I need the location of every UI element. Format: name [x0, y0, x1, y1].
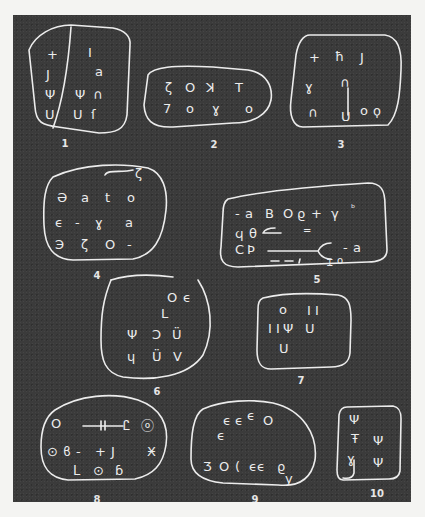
svg-text:ɣ: ɣ [95, 215, 103, 230]
svg-text:ζ: ζ [81, 237, 88, 252]
svg-text:Ψ: Ψ [373, 433, 383, 448]
svg-text:U: U [305, 321, 315, 336]
svg-text:ϱ: ϱ [297, 206, 305, 221]
svg-text:Ͻ: Ͻ [152, 327, 161, 342]
svg-text:L: L [161, 306, 169, 321]
svg-text:O: O [219, 459, 229, 474]
svg-text:Ψ: Ψ [349, 412, 359, 427]
svg-text:ᵇ: ᵇ [351, 203, 355, 214]
tablet-6: O ϵ L Ψ Ͻ Ü ɥ Ü V 6 [101, 275, 210, 397]
svg-text:V: V [173, 349, 182, 364]
svg-text:⊙: ⊙ [47, 444, 58, 459]
tablet-10: Ψ Ŧ Ψ ɣ Ψ 10 [337, 406, 401, 499]
svg-text:ꓘ: ꓘ [205, 80, 215, 95]
tablet-number-2: 2 [211, 139, 218, 150]
svg-text:o: o [186, 101, 194, 116]
tablet-1: + J Ψ U I a Ψ ∩ U ſ 1 [29, 25, 130, 149]
tablet-5: - a B O ϱ + γ ᵇ ϥ θ = C Ϸ - a Ꮖ o 5 [221, 183, 387, 285]
tablet-3: + ħ J ɣ ∩ ∩ U o ϙ 3 [291, 35, 402, 150]
svg-text:+: + [311, 206, 322, 221]
svg-text:a: a [81, 190, 89, 205]
tablet-4: ζ Ә a t o ϵ - ɣ a Э ζ O - 4 [44, 165, 167, 281]
svg-text:a: a [353, 240, 361, 255]
svg-text:a: a [125, 215, 133, 230]
tablet-9: ϵ ϵ ϵ O ϵ Ӡ O ( ϵϵ ϱ y 9 [191, 401, 315, 502]
svg-text:ζ: ζ [165, 80, 172, 95]
svg-text:t: t [105, 190, 110, 205]
svg-text:I I: I I [268, 321, 280, 336]
svg-text:O: O [105, 237, 115, 252]
tablet-8: O Ꮭ ⓞ ⊙ ϐ - + J Ӿ ᒪ ⊙ ɓ 8 [41, 396, 167, 502]
svg-text:ϵϵ: ϵϵ [249, 459, 265, 474]
tablet-number-7: 7 [298, 375, 305, 386]
svg-text:ζ: ζ [135, 166, 142, 181]
svg-text:Ϸ: Ϸ [247, 242, 255, 257]
svg-text:O: O [185, 80, 195, 95]
svg-text:⊙: ⊙ [93, 463, 104, 478]
svg-text:J: J [45, 67, 50, 82]
svg-text:J: J [359, 50, 364, 65]
svg-text:-: - [235, 206, 240, 221]
svg-text:ϵ: ϵ [235, 413, 243, 428]
svg-text:C: C [235, 242, 244, 257]
svg-text:Ꮖ: Ꮖ [327, 258, 333, 268]
svg-text:Э: Э [55, 237, 64, 252]
tablet-number-8: 8 [94, 494, 101, 502]
svg-text:-: - [76, 444, 81, 459]
svg-text:ϙ: ϙ [373, 103, 381, 118]
svg-text:ϥ: ϥ [235, 226, 244, 241]
svg-text:ſ: ſ [91, 107, 96, 122]
tablet-number-1: 1 [62, 138, 69, 149]
svg-text:U: U [341, 109, 351, 124]
inscription-plate: + J Ψ U I a Ψ ∩ U ſ 1 ζ O ꓘ T 7 o ɣ o 2 … [13, 15, 411, 502]
svg-text:o: o [360, 103, 368, 118]
svg-text:∩: ∩ [93, 87, 103, 102]
svg-text:B: B [265, 206, 274, 221]
svg-text:o: o [279, 302, 287, 317]
tablet-2: ζ O ꓘ T 7 o ɣ o 2 [144, 66, 271, 150]
svg-text:Ꮭ: Ꮭ [123, 418, 130, 433]
svg-text:o: o [127, 190, 135, 205]
svg-text:ⓞ: ⓞ [141, 418, 154, 433]
svg-text:o: o [245, 101, 253, 116]
tablet-number-4: 4 [94, 270, 101, 281]
svg-text:ɣ: ɣ [212, 101, 220, 116]
svg-text:θ: θ [249, 226, 257, 241]
svg-text:ɥ: ɥ [127, 349, 135, 364]
svg-text:Ψ: Ψ [283, 321, 293, 336]
svg-text:+: + [95, 444, 106, 459]
svg-text:Ψ: Ψ [373, 455, 383, 470]
svg-text:Ŧ: Ŧ [350, 431, 359, 446]
svg-text:+: + [47, 47, 58, 62]
svg-text:-: - [343, 240, 348, 255]
svg-text:I: I [88, 45, 92, 60]
svg-text:a: a [245, 206, 253, 221]
svg-text:ϵ: ϵ [183, 290, 191, 305]
svg-text:y: y [285, 471, 293, 486]
svg-text:O: O [283, 206, 293, 221]
svg-text:Ӡ: Ӡ [203, 459, 212, 474]
svg-text:(: ( [235, 459, 240, 474]
svg-text:U: U [45, 107, 55, 122]
svg-text:+: + [309, 50, 320, 65]
svg-text:Ü: Ü [172, 326, 182, 342]
svg-text:-: - [127, 237, 132, 252]
svg-text:o: o [337, 255, 343, 266]
svg-text:I I: I I [307, 303, 319, 318]
svg-text:ħ: ħ [335, 49, 344, 64]
svg-text:a: a [95, 64, 103, 79]
tablet-7: o I I I I Ψ U U 7 [257, 294, 351, 386]
svg-text:ϵ: ϵ [223, 413, 231, 428]
svg-text:=: = [303, 225, 311, 236]
svg-text:Ψ: Ψ [127, 327, 137, 342]
svg-text:U: U [279, 341, 289, 356]
svg-text:Ü: Ü [152, 348, 162, 364]
svg-text:Ψ: Ψ [75, 87, 85, 102]
svg-text:-: - [75, 215, 80, 230]
svg-text:Ӿ: Ӿ [147, 444, 156, 459]
svg-text:7: 7 [163, 101, 171, 116]
svg-text:ɣ: ɣ [305, 79, 313, 94]
svg-text:O: O [263, 413, 273, 428]
svg-text:O: O [51, 416, 61, 431]
svg-text:ϐ: ϐ [63, 444, 71, 459]
